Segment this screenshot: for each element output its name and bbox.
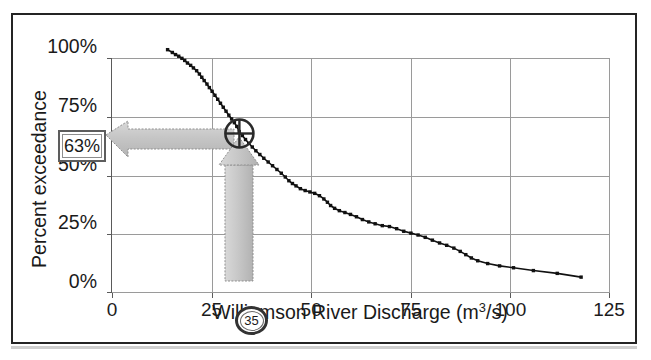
discharge-value-badge-value: 35 bbox=[240, 311, 264, 331]
ytick-mark-50 bbox=[107, 176, 112, 177]
gridline-y-50 bbox=[112, 176, 610, 177]
gridline-x-75 bbox=[411, 58, 412, 293]
x-axis-title: Williamson River Discharge (m3/s) bbox=[111, 301, 609, 324]
ytick-mark-100 bbox=[107, 58, 112, 59]
data-point-marker bbox=[166, 48, 169, 51]
y-axis-title: Percent exceedance bbox=[28, 90, 51, 268]
x-axis-title-superscript: 3 bbox=[479, 300, 486, 315]
x-axis-title-tail: /s) bbox=[486, 301, 508, 323]
xtick-mark-125 bbox=[609, 293, 610, 298]
ytick-label-25: 25% bbox=[13, 213, 97, 233]
data-point-marker bbox=[174, 53, 177, 56]
ytick-label-0: 0% bbox=[13, 272, 97, 292]
plot-area: 0 25 50 75 100 125 bbox=[111, 58, 609, 293]
percent-exceedance-readout-value: 63% bbox=[62, 134, 102, 158]
gridline-y-100 bbox=[112, 58, 610, 59]
xtick-mark-75 bbox=[411, 293, 412, 298]
gridline-y-0 bbox=[112, 292, 610, 293]
percent-exceedance-readout: 63% bbox=[58, 130, 106, 162]
ytick-mark-75 bbox=[107, 117, 112, 118]
page-shadow bbox=[11, 346, 637, 349]
data-point-marker bbox=[171, 51, 174, 54]
figure-frame: 100% 75% 50% 25% 0% Percent exceedance bbox=[11, 13, 637, 344]
gridline-y-25 bbox=[112, 234, 610, 235]
xtick-mark-25 bbox=[212, 293, 213, 298]
gridline-x-100 bbox=[510, 58, 511, 293]
gridline-x-25 bbox=[212, 58, 213, 293]
xtick-mark-50 bbox=[311, 293, 312, 298]
gridline-y-75 bbox=[112, 117, 610, 118]
ytick-label-75: 75% bbox=[13, 96, 97, 116]
gridline-x-50 bbox=[311, 58, 312, 293]
xtick-mark-100 bbox=[510, 293, 511, 298]
figure-container: 100% 75% 50% 25% 0% Percent exceedance bbox=[0, 0, 651, 360]
gridline-x-125 bbox=[609, 58, 610, 293]
ytick-label-100: 100% bbox=[13, 37, 97, 57]
discharge-value-badge: 35 bbox=[235, 306, 268, 335]
xtick-mark-0 bbox=[112, 293, 113, 298]
ytick-mark-25 bbox=[107, 234, 112, 235]
